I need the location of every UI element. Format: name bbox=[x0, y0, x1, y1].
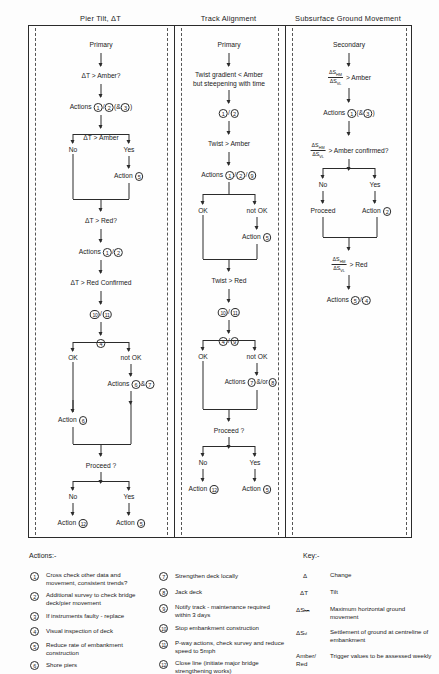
arrow-track-8 bbox=[229, 320, 230, 333]
dashed-guide-right-1 bbox=[167, 28, 168, 535]
action-ref-4: 4 bbox=[97, 339, 106, 348]
action-ref-5b: 5 bbox=[137, 519, 146, 528]
action-number-7: 7 bbox=[159, 572, 168, 581]
track-alignment-question-2: Twist > Amber bbox=[208, 139, 250, 148]
arrow-pier-13 bbox=[101, 444, 102, 456]
pier-split-bar-3 bbox=[73, 481, 129, 482]
action-text-5: Reduce rate of embankment construction bbox=[46, 641, 148, 657]
key-definition-2: Tilt bbox=[330, 588, 435, 596]
ground-merge-right bbox=[377, 217, 378, 237]
pier-tilt-actions-3-label: Actions bbox=[107, 380, 129, 387]
action-text-6: Shore piers bbox=[46, 661, 148, 669]
arrow-track-3 bbox=[229, 121, 230, 134]
track-merge-right-1 bbox=[257, 244, 258, 259]
ratio-fraction-3: ΔSHM ΔSVL bbox=[332, 256, 347, 274]
column-divider-2 bbox=[285, 26, 286, 537]
track-actions-2-label: Actions bbox=[225, 378, 246, 385]
track-stem-1 bbox=[229, 182, 230, 194]
ratio-denominator-1: ΔSVL bbox=[328, 78, 343, 86]
action-text-9: Notify track - maintenance required with… bbox=[175, 603, 283, 619]
arrow-pier-yes-2 bbox=[129, 481, 130, 490]
pier-tilt-branch-no-2: No bbox=[69, 492, 78, 501]
action-number-9: 9 bbox=[159, 604, 168, 613]
action-ref-g5: 5 bbox=[351, 296, 360, 305]
ratio-numerator-1: ΔSHM bbox=[328, 69, 343, 78]
key-legend-title: Key:- bbox=[303, 552, 319, 559]
arrow-pier-16 bbox=[129, 503, 130, 515]
ratio-numerator-2: ΔSHM bbox=[311, 142, 326, 151]
pier-merge-left-1 bbox=[73, 154, 74, 199]
arrow-pier-10 bbox=[131, 364, 132, 376]
track-alignment-tier: Primary bbox=[217, 40, 240, 49]
ratio-denominator-3: ΔSVL bbox=[332, 265, 347, 273]
actions-legend-title: Actions:- bbox=[29, 552, 56, 559]
pier-tilt-branch-yes-1: Yes bbox=[124, 145, 135, 154]
action-ref-t1b: 1 bbox=[225, 171, 234, 180]
column-header-track-alignment: Track Alignment bbox=[173, 14, 284, 23]
track-alignment-actions-2: Actions 7&/or8 bbox=[225, 378, 278, 387]
action-ref-t8: 8 bbox=[268, 378, 277, 387]
ground-merge-bar bbox=[323, 237, 377, 238]
key-symbol-2: ΔT bbox=[300, 589, 308, 596]
pier-split-bar-1 bbox=[73, 134, 129, 135]
arrow-pier-7 bbox=[101, 260, 102, 273]
ratio-fraction-1: ΔSHM ΔSVL bbox=[328, 69, 343, 87]
arrow-pier-8 bbox=[101, 291, 102, 304]
action-text-12: Close line (initiate major bridge streng… bbox=[175, 659, 285, 674]
arrow-pier-ok bbox=[73, 342, 74, 351]
key-definition-5: Trigger values to be assessed weekly bbox=[330, 652, 434, 660]
arrow-pier-3 bbox=[101, 115, 102, 128]
pier-tilt-actions-2-label: Actions bbox=[79, 248, 101, 255]
ground-branch-no: No bbox=[319, 180, 328, 189]
pier-tilt-actions-1-label: Actions bbox=[70, 103, 92, 110]
track-final-no-label: Action bbox=[189, 485, 208, 492]
action-ref-t7: 7 bbox=[247, 378, 256, 387]
action-text-7: Strengthen deck locally bbox=[175, 572, 285, 580]
action-number-6: 6 bbox=[30, 661, 39, 670]
action-ref-t12: 12 bbox=[209, 485, 219, 494]
pier-merge-left-2 bbox=[73, 427, 74, 444]
flowchart-page: Pier Tilt, ΔT Track Alignment Subsurface… bbox=[0, 0, 439, 674]
track-branch-ok-1: OK bbox=[198, 206, 208, 215]
action-ref-1b: 1 bbox=[103, 248, 112, 257]
key-definition-1: Change bbox=[330, 571, 435, 579]
arrow-track-7 bbox=[229, 289, 230, 302]
action-ref-3: 3 bbox=[121, 103, 130, 112]
track-branch-yes: Yes bbox=[250, 458, 261, 467]
arrow-pier-11 bbox=[131, 391, 132, 404]
arrow-pier-1 bbox=[101, 53, 102, 66]
track-merge-right-2 bbox=[257, 390, 258, 409]
ground-action-yes-label: Action bbox=[362, 207, 381, 214]
action-number-3: 3 bbox=[30, 612, 39, 621]
arrow-track-4 bbox=[229, 152, 230, 165]
action-ref-2: 2 bbox=[105, 103, 114, 112]
track-action-notok-1: Action 5 bbox=[242, 232, 272, 242]
arrow-ground-8 bbox=[349, 275, 350, 289]
action-ref-t1: 1 bbox=[219, 109, 228, 118]
pier-split-bar-2 bbox=[73, 342, 129, 343]
action-text-4: Visual inspection of deck bbox=[46, 627, 156, 635]
track-q1-line2: but steepening with time bbox=[193, 79, 265, 88]
arrow-track-yes bbox=[255, 446, 256, 456]
track-alignment-nums-1: 1/2 bbox=[219, 108, 240, 118]
column-header-pier-tilt: Pier Tilt, ΔT bbox=[28, 14, 173, 23]
ground-branch-yes: Yes bbox=[370, 180, 381, 189]
arrow-pier-6 bbox=[101, 229, 102, 242]
action-ref-6b: 6 bbox=[79, 416, 88, 425]
action-number-4: 4 bbox=[30, 627, 39, 636]
pier-tilt-question-2: ΔT > Red? bbox=[85, 216, 117, 225]
pier-tilt-branch-yes-2: Yes bbox=[124, 492, 135, 501]
dashed-guide-left-1 bbox=[35, 28, 36, 535]
action-text-1: Cross check other data and movement, con… bbox=[46, 571, 151, 587]
arrow-pier-yes-1 bbox=[129, 134, 130, 143]
pier-tilt-proceed: Proceed ? bbox=[86, 461, 117, 470]
action-number-2: 2 bbox=[30, 592, 39, 601]
pier-tilt-action-4: Action 6 bbox=[58, 415, 88, 425]
action-ref-t2: 2 bbox=[230, 109, 239, 118]
arrow-track-notok-1 bbox=[255, 194, 256, 204]
action-text-10: Stop embankment construction bbox=[175, 624, 285, 632]
ground-q2-tail: > Amber confirmed? bbox=[328, 147, 388, 154]
ground-movement-tier: Secondary bbox=[333, 40, 365, 49]
flowchart-frame: Primary ΔT > Amber? Actions 1/2(&3) ΔT >… bbox=[28, 25, 412, 538]
action-ref-6: 6 bbox=[132, 380, 141, 389]
